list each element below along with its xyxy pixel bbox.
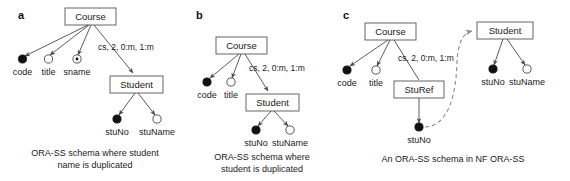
node-course-c[interactable]: Course (365, 23, 416, 40)
edge-label-course-student-b: cs, 2, 0:m, 1:m (249, 63, 305, 73)
attr-marker-key-code-b (203, 78, 211, 86)
attr-label-stuno-b: stuNo (244, 138, 268, 148)
attr-marker-key-code-a (18, 55, 26, 63)
attr-label-title-c: title (369, 78, 383, 88)
attr-marker-plain-stuname-a (153, 115, 161, 123)
caption-line1-c: An ORA-SS schema in NF ORA-SS (381, 154, 524, 164)
node-sturef-c[interactable]: StuRef (394, 81, 444, 98)
ora-ss-schema-figure: a Course cs, 2, 0:m, 1:m code title snam… (0, 0, 570, 181)
attr-label-sname-a: sname (63, 67, 90, 77)
attr-label-stuname-b: stuName (272, 138, 308, 148)
node-label-course-b: Course (226, 40, 257, 51)
attr-marker-key-stuno-c (489, 65, 497, 73)
node-label-course-a: Course (75, 11, 106, 22)
figure-canvas: a Course cs, 2, 0:m, 1:m code title snam… (0, 0, 570, 181)
node-student-b[interactable]: Student (246, 94, 299, 111)
attr-label-title-a: title (41, 67, 55, 77)
caption-line1-b: ORA-SS schema where (214, 152, 310, 162)
caption-line1-a: ORA-SS schema where student (31, 148, 159, 158)
attr-marker-plain-stuname-b (286, 126, 294, 134)
attr-label-title-b: title (224, 90, 238, 100)
node-label-student-b: Student (256, 97, 289, 108)
attr-label-stuno-a: stuNo (105, 127, 129, 137)
attr-label-stuno-ref-c: stuNo (407, 135, 431, 145)
attr-label-code-b: code (197, 90, 217, 100)
attr-marker-plain-title-b (227, 78, 235, 86)
attr-label-stuname-a: stuName (139, 127, 175, 137)
node-course-b[interactable]: Course (216, 37, 267, 54)
node-student-a[interactable]: Student (110, 76, 163, 93)
caption-line2-b: student is duplicated (221, 164, 303, 174)
node-label-sturef-c: StuRef (404, 84, 433, 95)
panel-letter-c: c (343, 9, 349, 21)
attr-label-code-c: code (337, 78, 357, 88)
attr-label-stuname-c: stuName (509, 77, 545, 87)
edge-label-course-student-c: cs, 2, 0:m, 1:m (398, 53, 454, 63)
attr-marker-key-stuno-b (252, 126, 260, 134)
attr-marker-plain-stuname-c (523, 65, 531, 73)
node-label-student-a: Student (120, 79, 153, 90)
edge-label-course-student-a: cs, 2, 0:m, 1:m (98, 42, 154, 52)
attr-marker-key-stuno-ref-c (415, 123, 423, 131)
attr-marker-plain-title-c (372, 66, 380, 74)
panel-letter-b: b (196, 9, 203, 21)
caption-line2-a: name is duplicated (57, 160, 132, 170)
node-label-student-c: Student (489, 25, 522, 36)
node-student-c[interactable]: Student (477, 22, 533, 39)
attr-marker-key-stuno-a (113, 115, 121, 123)
attr-marker-dot-sname-a (76, 58, 79, 61)
panel-letter-a: a (18, 9, 25, 21)
attr-marker-key-code-c (343, 66, 351, 74)
attr-label-code-a: code (13, 67, 33, 77)
node-course-a[interactable]: Course (65, 8, 116, 25)
node-label-course-c: Course (375, 26, 406, 37)
attr-marker-plain-title-a (44, 55, 52, 63)
attr-label-stuno-c: stuNo (481, 77, 505, 87)
